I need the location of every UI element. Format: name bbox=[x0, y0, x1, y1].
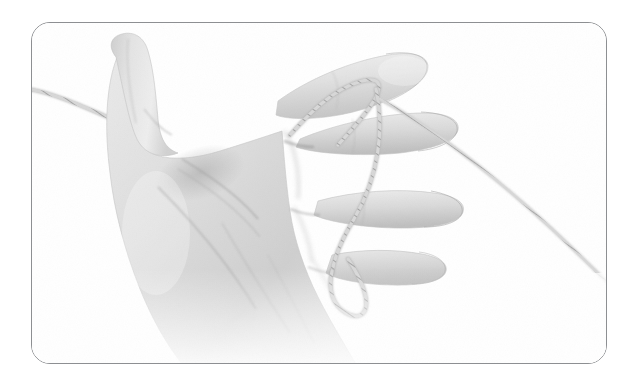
hand-with-string-illustration: Open left hand, palm facing the camera w… bbox=[32, 23, 606, 363]
screenshot-root: Open left hand, palm facing the camera w… bbox=[0, 0, 628, 382]
framed-photograph: Open left hand, palm facing the camera w… bbox=[31, 22, 607, 364]
film-grain bbox=[32, 23, 606, 363]
photo-canvas: Open left hand, palm facing the camera w… bbox=[32, 23, 606, 363]
